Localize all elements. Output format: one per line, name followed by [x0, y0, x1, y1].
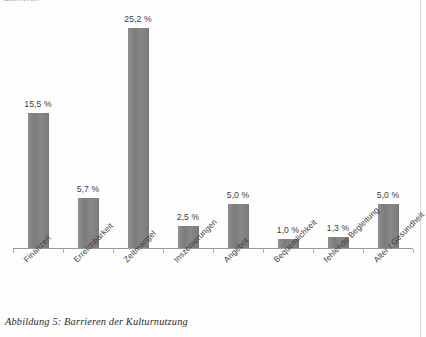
bar-value-label: 25,2 %: [124, 14, 151, 24]
x-axis-tick: [213, 249, 214, 253]
figure-caption: Abbildung 5: Barrieren der Kulturnutzung: [5, 316, 188, 327]
x-axis-tick: [163, 249, 164, 253]
x-axis-tick: [13, 249, 14, 253]
bar-chart: 15,5 %5,7 %25,2 %2,5 %5,0 %1,0 %1,3 %5,0…: [0, 0, 426, 337]
bar-value-label: 5,0 %: [377, 190, 399, 200]
bar-rect: [128, 28, 149, 248]
bar: [28, 113, 49, 248]
bar-value-label: 15,5 %: [24, 99, 51, 109]
bar-value-label: 5,7 %: [77, 184, 99, 194]
bar-value-label: 5,0 %: [227, 190, 249, 200]
x-axis-tick: [263, 249, 264, 253]
bar-value-label: 2,5 %: [177, 212, 199, 222]
x-axis-tick: [363, 249, 364, 253]
category-label: fehlende Begleitung: [322, 205, 381, 264]
scanned-page: Barrieren 15,5 %5,7 %25,2 %2,5 %5,0 %1,0…: [0, 0, 426, 337]
x-axis-tick: [63, 249, 64, 253]
bar-value-label: 1,3 %: [327, 223, 349, 233]
bar: [128, 28, 149, 248]
x-axis-tick: [113, 249, 114, 253]
x-axis-tick: [313, 249, 314, 253]
bar-rect: [28, 113, 49, 248]
x-axis-tick: [413, 249, 414, 253]
